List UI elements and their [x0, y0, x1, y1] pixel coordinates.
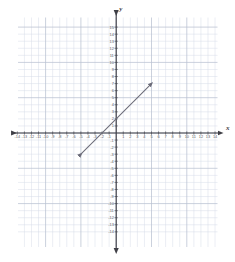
y-tick-label: -5	[110, 166, 113, 171]
y-tick-label: 12	[109, 46, 113, 51]
x-tick-label: 2	[129, 134, 131, 139]
x-tick-label: 14	[213, 134, 218, 139]
x-tick-label: 1	[122, 134, 124, 139]
x-tick-label: 12	[199, 134, 203, 139]
x-tick-label: -7	[65, 134, 68, 139]
y-axis-label: y	[118, 5, 123, 13]
x-tick-label: 7	[165, 134, 167, 139]
y-tick-label: -3	[110, 152, 113, 157]
x-tick-label: -14	[15, 134, 21, 139]
y-tick-label: 5	[112, 95, 114, 100]
x-tick-label: -5	[79, 134, 82, 139]
x-tick-label: -10	[43, 134, 49, 139]
x-tick-label: 5	[150, 134, 152, 139]
y-tick-label: 3	[112, 109, 114, 114]
y-tick-label: 11	[110, 53, 114, 58]
y-tick-label: -1	[110, 138, 113, 143]
x-tick-label: 4	[143, 134, 146, 139]
y-tick-label: 8	[112, 74, 114, 79]
y-tick-label: 7	[112, 81, 114, 86]
x-tick-label: -8	[58, 134, 61, 139]
x-tick-label: -6	[72, 134, 75, 139]
x-tick-label: -13	[22, 134, 28, 139]
y-tick-label: 2	[112, 116, 114, 121]
x-tick-label: -11	[36, 134, 41, 139]
y-tick-label: -8	[110, 187, 113, 192]
y-tick-label: 13	[109, 39, 113, 44]
y-tick-label: 1	[112, 123, 114, 128]
y-tick-label: -10	[108, 201, 114, 206]
y-tick-label: -14	[108, 229, 114, 234]
x-tick-label: 9	[179, 134, 181, 139]
major-gridlines	[18, 18, 218, 248]
x-tick-label: 3	[136, 134, 138, 139]
x-tick-label: 11	[192, 134, 196, 139]
x-tick-label: -9	[51, 134, 54, 139]
coordinate-graph: -14-13-12-11-10-9-8-7-6-5-4-3-2-11234567…	[0, 0, 235, 262]
y-tick-label: 6	[112, 88, 114, 93]
x-tick-label: 8	[172, 134, 174, 139]
x-tick-label: 6	[157, 134, 159, 139]
x-tick-label: -12	[29, 134, 35, 139]
y-tick-label: -2	[110, 145, 113, 150]
x-tick-label: -4	[86, 134, 90, 139]
y-tick-label: -7	[110, 180, 113, 185]
y-tick-label: -9	[110, 194, 113, 199]
x-tick-label: 10	[185, 134, 190, 139]
y-tick-label: 9	[112, 67, 114, 72]
y-tick-label: 15	[109, 25, 113, 30]
minor-gridlines	[18, 18, 218, 248]
y-tick-label: -11	[108, 208, 113, 213]
y-tick-label: -12	[108, 215, 114, 220]
y-tick-label: -13	[108, 222, 114, 227]
x-tick-label: 13	[206, 134, 210, 139]
x-axis-label: x	[225, 124, 230, 132]
y-tick-label: -6	[110, 173, 113, 178]
graph-canvas: -14-13-12-11-10-9-8-7-6-5-4-3-2-11234567…	[0, 0, 235, 262]
x-tick-label: -2	[100, 134, 103, 139]
